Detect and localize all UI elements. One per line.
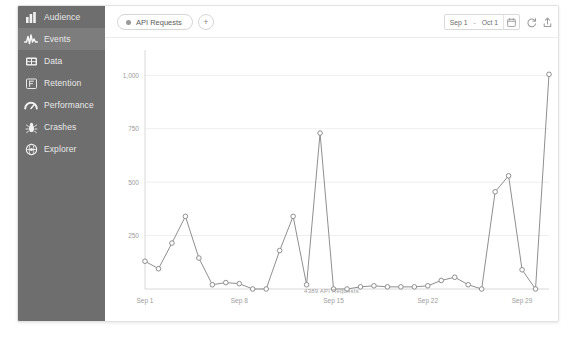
sidebar-item-label: Performance — [44, 100, 94, 110]
series-point[interactable] — [318, 131, 323, 136]
date-range-start: Sep 1 — [445, 19, 473, 26]
series-point[interactable] — [210, 282, 215, 287]
sidebar-item-explorer[interactable]: Explorer — [18, 138, 105, 160]
series-point[interactable] — [224, 280, 229, 285]
sidebar-item-events[interactable]: Events — [18, 28, 105, 50]
share-icon[interactable] — [540, 15, 554, 29]
chart-toolbar: API Requests + Sep 1 - Oct 1 — [105, 6, 558, 38]
metric-chip-api-requests[interactable]: API Requests — [117, 14, 193, 30]
date-range-picker[interactable]: Sep 1 - Oct 1 — [444, 14, 520, 30]
chart-area: 2505007501,000Sep 1Sep 8Sep 15Sep 22Sep … — [105, 38, 558, 321]
main-content: API Requests + Sep 1 - Oct 1 — [105, 6, 558, 321]
bug-icon — [24, 120, 38, 134]
bar-chart-icon — [24, 10, 38, 24]
series-point[interactable] — [304, 282, 309, 287]
sidebar-item-label: Explorer — [44, 144, 76, 154]
sidebar: Audience Events — [18, 6, 105, 321]
series-line — [145, 74, 549, 289]
refresh-icon[interactable] — [524, 15, 538, 29]
globe-icon — [24, 142, 38, 156]
sidebar-item-label: Events — [44, 34, 71, 44]
metric-chip-label: API Requests — [136, 18, 182, 27]
y-tick-label: 250 — [128, 232, 139, 239]
series-point[interactable] — [506, 173, 511, 178]
series-point[interactable] — [466, 282, 471, 287]
series-point[interactable] — [197, 256, 202, 261]
sidebar-item-crashes[interactable]: Crashes — [18, 116, 105, 138]
x-tick-label: Sep 15 — [323, 297, 344, 305]
analytics-window: Audience Events — [17, 5, 559, 322]
sidebar-item-label: Data — [44, 56, 62, 66]
series-point[interactable] — [493, 190, 498, 195]
api-requests-line-chart[interactable]: 2505007501,000Sep 1Sep 8Sep 15Sep 22Sep … — [105, 38, 558, 321]
app-root: Audience Events — [0, 0, 566, 342]
sidebar-item-performance[interactable]: Performance — [18, 94, 105, 116]
series-point[interactable] — [520, 267, 525, 272]
sidebar-item-retention[interactable]: Retention — [18, 72, 105, 94]
sidebar-item-audience[interactable]: Audience — [18, 6, 105, 28]
y-tick-label: 500 — [128, 179, 139, 186]
sidebar-item-data[interactable]: Data — [18, 50, 105, 72]
series-dot-icon — [126, 20, 131, 25]
date-range-end: Oct 1 — [477, 19, 503, 26]
x-tick-label: Sep 22 — [417, 297, 438, 305]
y-tick-label: 750 — [128, 125, 139, 132]
sidebar-item-label: Retention — [44, 78, 81, 88]
grid-table-icon — [24, 54, 38, 68]
series-point[interactable] — [237, 281, 242, 286]
sidebar-item-label: Audience — [44, 12, 80, 22]
series-point[interactable] — [170, 241, 175, 246]
series-point[interactable] — [143, 259, 148, 264]
speedometer-icon — [24, 98, 38, 112]
series-point[interactable] — [277, 248, 282, 253]
pulse-icon — [24, 32, 38, 46]
series-point[interactable] — [291, 214, 296, 219]
x-tick-label: Sep 1 — [137, 297, 154, 305]
x-tick-label: Sep 8 — [231, 297, 248, 305]
y-tick-label: 1,000 — [123, 72, 140, 79]
series-point[interactable] — [156, 266, 161, 271]
x-tick-label: Sep 29 — [512, 297, 533, 305]
series-point[interactable] — [183, 214, 188, 219]
chart-caption: 4389 API Requests — [105, 288, 558, 294]
plus-icon: + — [203, 18, 208, 27]
funnel-f-icon — [24, 76, 38, 90]
sidebar-item-label: Crashes — [44, 122, 76, 132]
series-point[interactable] — [439, 278, 444, 283]
add-metric-button[interactable]: + — [198, 14, 214, 30]
calendar-icon[interactable] — [503, 15, 519, 29]
series-point[interactable] — [452, 275, 457, 280]
series-point[interactable] — [547, 72, 552, 77]
